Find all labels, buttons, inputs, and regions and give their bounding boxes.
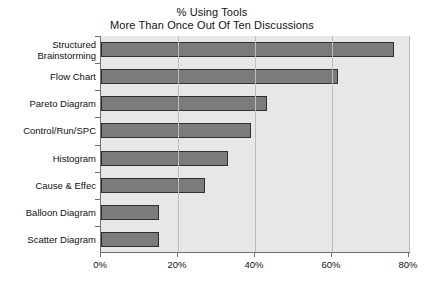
y-axis-label: Histogram: [0, 153, 96, 164]
y-axis-label: Cause & Effec: [0, 180, 96, 191]
x-axis-tick-label: 80%: [398, 259, 417, 270]
y-axis-tick: [95, 199, 100, 200]
bar: [101, 69, 338, 84]
y-axis-tick: [95, 36, 100, 37]
y-axis-label: Pareto Diagram: [0, 98, 96, 109]
y-axis-label-line: Brainstorming: [0, 50, 96, 61]
y-axis-label-line: Cause & Effec: [0, 180, 96, 191]
x-axis-tick-label: 60%: [321, 259, 340, 270]
y-axis-label: Control/Run/SPC: [0, 125, 96, 136]
y-axis-label: Balloon Diagram: [0, 207, 96, 218]
y-axis-label-line: Pareto Diagram: [0, 98, 96, 109]
chart-title-block: % Using Tools More Than Once Out Of Ten …: [0, 6, 424, 32]
bar-chart: % Using Tools More Than Once Out Of Ten …: [0, 0, 424, 290]
y-axis-tick: [95, 117, 100, 118]
y-axis-tick: [95, 226, 100, 227]
y-axis-label-line: Flow Chart: [0, 71, 96, 82]
bar: [101, 42, 394, 57]
plot-area: [100, 36, 410, 253]
x-axis-tick-label: 40%: [244, 259, 263, 270]
x-axis-tick-labels: 0%20%40%60%80%: [0, 259, 424, 275]
gridline: [255, 36, 256, 252]
y-axis-tick: [95, 172, 100, 173]
x-axis-tick: [100, 253, 101, 257]
bar-row: [101, 117, 251, 144]
y-axis-tick: [95, 145, 100, 146]
bar: [101, 205, 159, 220]
y-axis-label-line: Structured: [0, 39, 96, 50]
x-axis-tick: [408, 253, 409, 257]
bar-row: [101, 199, 159, 226]
bar: [101, 151, 228, 166]
bar-row: [101, 145, 228, 172]
y-axis-label-line: Balloon Diagram: [0, 207, 96, 218]
y-axis-tick: [95, 63, 100, 64]
x-axis-tick-label: 20%: [167, 259, 186, 270]
gridline: [178, 36, 179, 252]
bar: [101, 232, 159, 247]
gridline: [332, 36, 333, 252]
chart-subtitle: More Than Once Out Of Ten Discussions: [0, 19, 424, 32]
y-axis-label-line: Scatter Diagram: [0, 234, 96, 245]
gridline: [409, 36, 410, 252]
y-axis-label-line: Histogram: [0, 153, 96, 164]
y-axis-tick: [95, 90, 100, 91]
bar: [101, 123, 251, 138]
y-axis-label: Scatter Diagram: [0, 234, 96, 245]
y-axis-category-labels: StructuredBrainstormingFlow ChartPareto …: [0, 36, 96, 253]
y-axis-label: Flow Chart: [0, 71, 96, 82]
bar-row: [101, 226, 159, 253]
x-axis-tick-label: 0%: [93, 259, 107, 270]
bar-row: [101, 63, 338, 90]
x-axis-tick: [331, 253, 332, 257]
x-axis-tick: [254, 253, 255, 257]
bar: [101, 96, 267, 111]
bar-row: [101, 36, 394, 63]
chart-title: % Using Tools: [0, 6, 424, 19]
x-axis-tick: [177, 253, 178, 257]
y-axis-label-line: Control/Run/SPC: [0, 125, 96, 136]
bar-row: [101, 172, 205, 199]
y-axis-label: StructuredBrainstorming: [0, 39, 96, 61]
bar-row: [101, 90, 267, 117]
bar: [101, 178, 205, 193]
